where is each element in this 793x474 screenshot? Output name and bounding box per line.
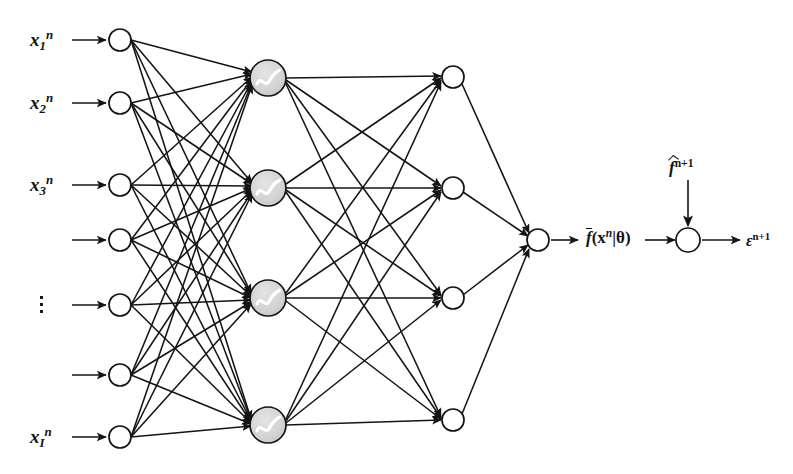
input-ellipsis	[40, 292, 43, 317]
output-node	[527, 229, 549, 251]
input-node-5	[109, 294, 131, 316]
edges-input-to-hidden1	[131, 40, 252, 437]
neural-network-diagram: x1n x2n x3n xIn f(xn|θ) fn+1 εn+1	[0, 0, 793, 474]
hidden-node-2	[250, 170, 286, 206]
hidden-layer-2-nodes	[442, 66, 464, 431]
target-label: fn+1	[669, 157, 693, 178]
input-node-2	[109, 92, 131, 114]
output-arrows-group	[551, 180, 740, 240]
hidden2-node-4	[442, 409, 464, 431]
network-output-label: f(xn|θ)	[586, 227, 631, 248]
input-node-7	[109, 426, 131, 448]
input-layer-nodes	[109, 29, 131, 448]
input-label-last: xIn	[30, 424, 52, 451]
input-label-3: x3n	[30, 172, 53, 199]
input-arrows-group	[72, 40, 106, 437]
error-label: εn+1	[746, 230, 770, 250]
hidden-layer-1-nodes	[250, 60, 286, 443]
input-node-1	[109, 29, 131, 51]
edges-hidden2-to-output	[462, 84, 529, 414]
input-node-6	[109, 364, 131, 386]
hidden2-node-3	[442, 287, 464, 309]
hidden2-node-1	[442, 66, 464, 88]
edges-hidden1-to-hidden2	[286, 76, 441, 425]
hidden2-node-2	[442, 177, 464, 199]
network-graph-svg	[0, 0, 793, 474]
hidden-node-1	[250, 60, 286, 96]
error-junction-node	[676, 228, 700, 252]
hidden-node-3	[250, 280, 286, 316]
input-label-2: x2n	[30, 90, 53, 117]
input-node-4	[109, 229, 131, 251]
input-node-3	[109, 174, 131, 196]
input-label-1: x1n	[30, 27, 53, 54]
hidden-node-4	[250, 407, 286, 443]
